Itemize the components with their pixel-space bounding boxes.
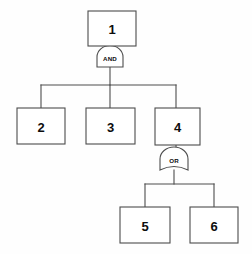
node-label: 3 <box>107 120 114 135</box>
gate-or[interactable]: OR <box>160 147 188 170</box>
node-5[interactable]: 5 <box>120 207 170 243</box>
or-gate-label: OR <box>169 157 179 164</box>
node-label: 1 <box>108 22 115 37</box>
node-label: 2 <box>37 120 44 135</box>
node-1[interactable]: 1 <box>88 11 136 46</box>
node-6[interactable]: 6 <box>190 207 238 243</box>
node-3[interactable]: 3 <box>86 108 135 144</box>
node-label: 5 <box>141 219 148 234</box>
node-label: 4 <box>174 120 182 135</box>
node-4[interactable]: 4 <box>155 108 200 145</box>
gate-and[interactable]: AND <box>97 46 123 67</box>
fault-tree-diagram: AND OR 1 2 3 4 5 6 <box>0 0 252 254</box>
node-label: 6 <box>210 219 217 234</box>
node-2[interactable]: 2 <box>17 108 65 144</box>
and-gate-label: AND <box>103 55 117 62</box>
